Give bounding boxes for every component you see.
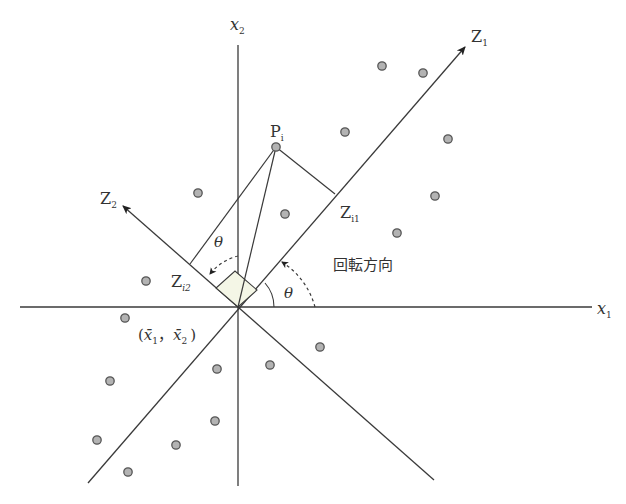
data-point [419, 69, 427, 77]
data-point [393, 229, 401, 237]
point-pi-label: Pi [270, 122, 284, 143]
data-point [316, 343, 324, 351]
data-point [266, 361, 274, 369]
data-point [194, 189, 202, 197]
pca-rotation-diagram: x2 x1 Z1 Z2 Pi Zi1 Zi2 θ θ 回転方向 (x̄1，x̄2… [0, 0, 626, 504]
data-point [281, 210, 289, 218]
mean-point-label: (x̄1，x̄2) [138, 326, 196, 346]
data-point [93, 436, 101, 444]
theta-upper-label: θ [214, 233, 223, 251]
z2-axis-label: Z2 [100, 189, 117, 210]
projection-to-z1 [276, 147, 335, 194]
projection-zi2-label: Zi2 [171, 272, 191, 293]
z1-axis-label: Z1 [471, 27, 488, 48]
rotation-arc-z2 [210, 256, 238, 274]
data-point [213, 365, 221, 373]
projection-zi1-label: Zi1 [340, 203, 360, 224]
x2-axis-label: x2 [230, 15, 245, 36]
projection-to-z2 [190, 147, 276, 264]
data-point [172, 441, 180, 449]
data-point [444, 135, 452, 143]
data-point [124, 468, 132, 476]
x1-axis-label: x1 [597, 299, 612, 320]
data-point [121, 314, 129, 322]
data-point [431, 192, 439, 200]
data-point [106, 377, 114, 385]
z1-axis [88, 47, 465, 483]
data-point [378, 62, 386, 70]
point-pi [272, 143, 280, 151]
z2-axis-lower [238, 307, 434, 480]
origin-to-pi [238, 147, 276, 307]
rotation-direction-label: 回転方向 [333, 256, 393, 274]
theta-angle-arc [265, 283, 274, 307]
data-point [341, 128, 349, 136]
data-point [211, 417, 219, 425]
theta-lower-label: θ [284, 284, 293, 302]
data-point [142, 277, 150, 285]
right-angle-marker [216, 271, 257, 307]
